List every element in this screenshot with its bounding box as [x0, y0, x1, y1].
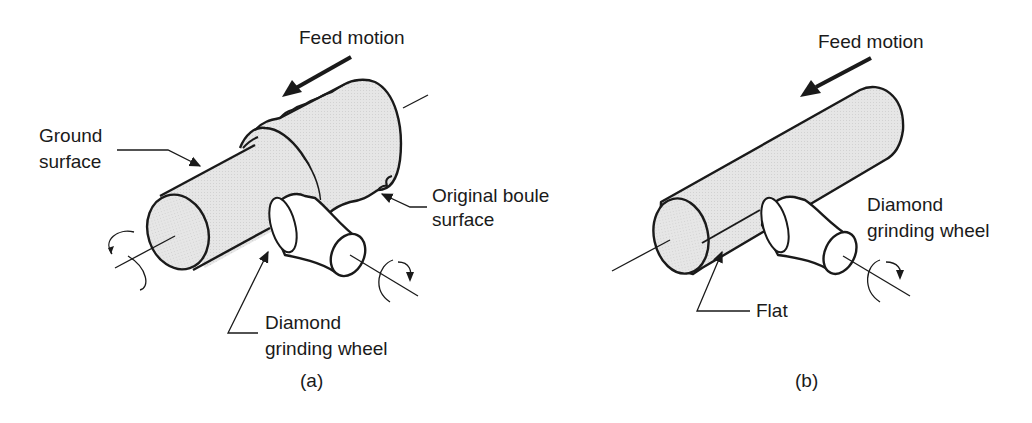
- feed-motion-label-b: Feed motion: [818, 29, 924, 55]
- feed-motion-label-a: Feed motion: [299, 25, 405, 51]
- cylinder-with-flat: [612, 87, 903, 279]
- original-boule-label-line2: surface: [432, 207, 494, 233]
- diamond-grinding-wheel-a: [264, 194, 418, 302]
- ground-surface-label-line2: surface: [39, 149, 101, 175]
- caption-b: (b): [795, 368, 818, 394]
- wheel-label-b-line1: Diamond: [867, 192, 943, 218]
- leader-wheel-a: [228, 252, 268, 333]
- panel-b: [612, 58, 910, 311]
- flat-label: Flat: [756, 298, 788, 324]
- wheel-label-a-line1: Diamond: [265, 310, 341, 336]
- ground-surface-label-line1: Ground: [39, 123, 102, 149]
- wheel-label-b-line2: grinding wheel: [867, 218, 990, 244]
- leader-original-boule: [382, 194, 427, 207]
- caption-a: (a): [300, 368, 323, 394]
- original-boule-label-line1: Original boule: [432, 183, 549, 209]
- wheel-label-a-line2: grinding wheel: [265, 336, 388, 362]
- leader-ground-surface: [117, 150, 200, 166]
- panel-a: [108, 57, 428, 333]
